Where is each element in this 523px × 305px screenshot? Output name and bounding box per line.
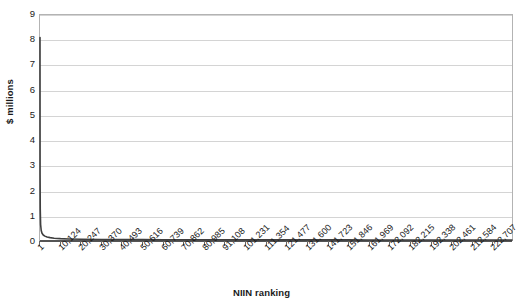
chart-container: $ millions 0123456789 110,12420,24730,37…: [0, 0, 523, 305]
y-axis-tick-label: 6: [18, 85, 35, 95]
x-axis-title: NIIN ranking: [0, 287, 523, 298]
plot-area: [39, 14, 513, 241]
series-line: [40, 38, 512, 240]
y-axis-tick-label: 3: [18, 161, 35, 171]
y-axis-tick-label: 5: [18, 110, 35, 120]
y-axis-title: $ millions: [4, 62, 15, 142]
x-axis-tick-labels: 110,12420,24730,37040,49350,61660,73970,…: [0, 246, 523, 290]
y-axis-tick-label: 8: [18, 34, 35, 44]
y-axis-tick-label: 1: [18, 211, 35, 221]
y-axis-tick-labels: 0123456789: [18, 14, 35, 241]
y-axis-tick-label: 2: [18, 186, 35, 196]
y-axis-tick-label: 4: [18, 135, 35, 145]
line-series-path: [40, 15, 512, 240]
y-axis-tick-label: 9: [18, 9, 35, 19]
y-axis-tick-label: 7: [18, 60, 35, 70]
y-axis-tick-label: 0: [18, 236, 35, 246]
